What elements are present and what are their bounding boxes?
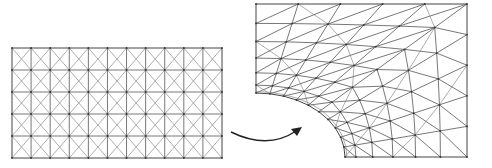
mapping-arrow-icon <box>231 127 302 141</box>
mesh-mapping-diagram <box>0 0 492 168</box>
right-deformed-mesh <box>255 3 468 158</box>
left-structured-mesh <box>11 47 223 159</box>
